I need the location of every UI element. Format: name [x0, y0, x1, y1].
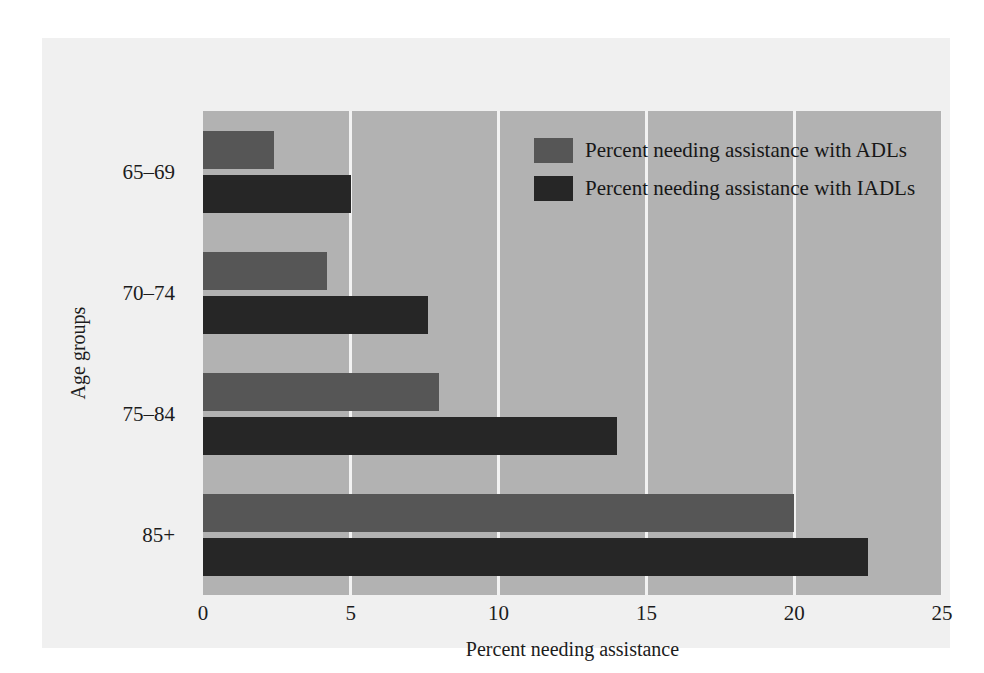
legend-swatch-adls — [534, 138, 573, 163]
bar-adl — [203, 131, 274, 169]
y-tick-label: 70–74 — [123, 280, 176, 305]
bar-iadl — [203, 175, 351, 213]
chart-legend: Percent needing assistance with ADLs Per… — [534, 131, 915, 207]
x-tick-label: 20 — [784, 601, 805, 626]
legend-swatch-iadls — [534, 176, 573, 201]
x-tick-label: 5 — [346, 601, 357, 626]
y-tick-label: 65–69 — [123, 159, 176, 184]
legend-item-adls: Percent needing assistance with ADLs — [534, 131, 915, 169]
gridline — [941, 111, 943, 595]
x-tick-label: 10 — [488, 601, 509, 626]
bar-adl — [203, 373, 439, 411]
y-tick-label: 75–84 — [123, 401, 176, 426]
x-tick-label: 15 — [636, 601, 657, 626]
y-tick-label: 85+ — [142, 522, 175, 547]
legend-item-iadls: Percent needing assistance with IADLs — [534, 169, 915, 207]
y-axis-title: Age groups — [67, 307, 90, 400]
bar-adl — [203, 494, 794, 532]
bar-adl — [203, 252, 327, 290]
legend-label-adls: Percent needing assistance with ADLs — [585, 138, 907, 163]
bar-iadl — [203, 417, 617, 455]
x-tick-label: 25 — [932, 601, 953, 626]
bar-iadl — [203, 296, 428, 334]
figure-canvas: Percent needing assistance with ADLs Per… — [42, 38, 950, 648]
bar-iadl — [203, 538, 868, 576]
legend-label-iadls: Percent needing assistance with IADLs — [585, 176, 915, 201]
x-tick-label: 0 — [198, 601, 209, 626]
plot-area: Percent needing assistance with ADLs Per… — [203, 111, 942, 595]
x-axis-title: Percent needing assistance — [203, 638, 942, 661]
